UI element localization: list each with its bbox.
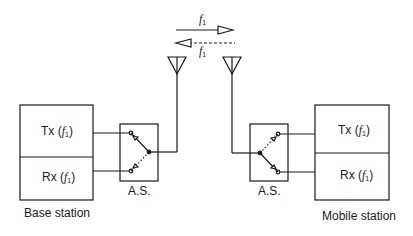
mobile-rx-label: Rx (f1): [340, 168, 373, 183]
base-tx-label: Tx (f1): [41, 124, 73, 139]
reverse-frequency-label: f1: [199, 44, 206, 59]
mobile-switch-label: A.S.: [258, 184, 281, 198]
base-station-label: Base station: [24, 206, 90, 220]
mobile-tx-label: Tx (f1): [338, 123, 370, 138]
base-station-box: [20, 105, 93, 200]
base-switch-icon: [129, 131, 151, 173]
base-switch-label: A.S.: [128, 184, 151, 198]
forward-frequency-label: f1: [199, 12, 206, 27]
mobile-switch-icon: [258, 132, 280, 174]
mobile-station-label: Mobile station: [322, 209, 396, 223]
forward-link-arrow: [176, 26, 233, 34]
mobile-antenna-icon: [223, 57, 260, 153]
base-rx-label: Rx (f1): [42, 170, 75, 185]
base-antenna-icon: [149, 57, 186, 152]
diagram-canvas: [0, 0, 413, 236]
